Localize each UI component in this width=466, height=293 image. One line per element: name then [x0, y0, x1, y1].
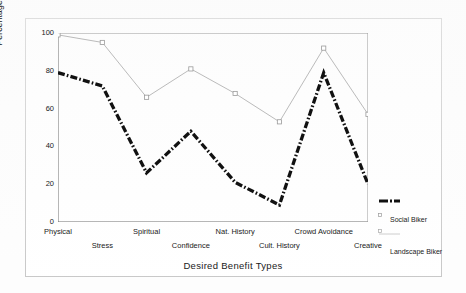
landscape-biker-point — [189, 67, 193, 71]
y-tick-label: 40 — [32, 142, 54, 149]
plot-area — [58, 33, 368, 222]
landscape-biker-point — [233, 91, 237, 95]
x-tick-label: Physical — [44, 228, 72, 236]
landscape-biker-point — [322, 46, 326, 50]
axis-lines — [58, 33, 368, 222]
chart-legend: Social Biker Landscape Biker — [378, 193, 464, 257]
social-biker-line-swatch — [378, 197, 404, 205]
legend-label-landscape-biker-row: Landscape Biker — [378, 241, 464, 257]
social-biker-marker-swatch — [378, 213, 404, 221]
y-tick-label: 20 — [32, 180, 54, 187]
legend-label-social-biker-row: Social Biker — [378, 209, 464, 225]
x-tick-label: Nat. History — [216, 228, 255, 236]
x-tick-label: Spiritual — [133, 228, 160, 236]
landscape-biker-point — [366, 112, 368, 116]
x-tick-label: Stress — [92, 242, 113, 250]
figure-container: Percentage Biker Responses 020406080100 … — [0, 0, 466, 293]
y-tick-label: 100 — [32, 29, 54, 36]
legend-item-social-biker — [378, 193, 464, 209]
social-biker-line — [58, 73, 368, 205]
y-tick-label: 80 — [32, 67, 54, 74]
x-tick-label: Cult. History — [259, 242, 300, 250]
legend-item-landscape-biker — [378, 225, 464, 241]
chart-svg — [58, 33, 368, 222]
y-axis-title: Percentage Biker Responses — [0, 0, 4, 58]
x-tick-label: Confidence — [172, 242, 210, 250]
landscape-biker-point — [100, 40, 104, 44]
y-axis-tick-labels: 020406080100 — [30, 33, 54, 222]
x-axis-title: Desired Benefit Types — [0, 260, 466, 271]
y-tick-label: 60 — [32, 105, 54, 112]
landscape-biker-point — [58, 33, 60, 37]
series-social-biker — [58, 73, 368, 205]
legend-label-landscape-biker: Landscape Biker — [390, 248, 442, 255]
landscape-biker-point — [277, 120, 281, 124]
landscape-biker-point — [144, 95, 148, 99]
x-tick-label: Crowd Avoidance — [295, 228, 353, 236]
landscape-biker-line-swatch — [378, 229, 404, 237]
